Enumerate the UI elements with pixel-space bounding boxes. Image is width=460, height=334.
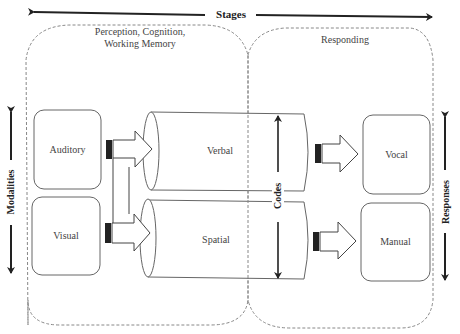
stages-label: Stages — [208, 8, 254, 20]
spatial-label: Spatial — [186, 234, 246, 246]
manual-label: Manual — [361, 236, 430, 248]
auditory-label: Auditory — [34, 144, 101, 156]
responses-label: Responses — [440, 177, 452, 227]
cross-modal-links — [113, 158, 129, 223]
verbal-to-vocal-arrow — [315, 135, 358, 172]
responding-label: Responding — [300, 34, 390, 46]
perception-label-line1: Perception, Cognition, — [75, 26, 205, 38]
visual-label: Visual — [32, 230, 100, 242]
perception-label-line2: Working Memory — [75, 38, 205, 50]
modalities-label: Modalities — [5, 167, 17, 217]
spatial-to-manual-arrow — [313, 222, 356, 259]
multiple-resource-diagram — [0, 0, 460, 334]
codes-label: Codes — [272, 176, 284, 216]
vocal-label: Vocal — [363, 149, 430, 161]
verbal-label: Verbal — [190, 145, 250, 157]
